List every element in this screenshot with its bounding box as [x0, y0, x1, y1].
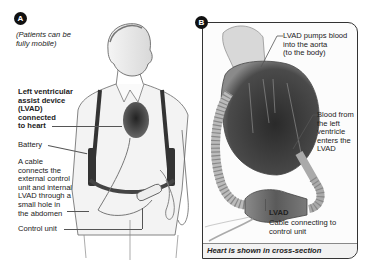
- caption-line: fully mobile): [16, 40, 71, 49]
- label-line: control unit: [269, 228, 336, 237]
- label-lvad: LVAD: [269, 209, 289, 218]
- label-line: LVAD: [317, 145, 354, 154]
- footer-caption: Heart is shown in cross-section: [207, 246, 321, 255]
- label-control-unit: Control unit: [18, 225, 57, 234]
- panel-b-footer: Heart is shown in cross-section: [203, 243, 357, 258]
- label-cable-connecting: Cable connecting to control unit: [269, 219, 336, 236]
- panel-a-badge: A: [14, 12, 27, 25]
- heart-on-chest: [123, 102, 149, 138]
- leader-control-unit: [64, 229, 142, 230]
- leader-lvad: [265, 199, 266, 211]
- label-lvad-connected: Left ventricular assist device (LVAD) co…: [18, 88, 73, 131]
- label-cable: A cable connects the external control un…: [18, 158, 72, 218]
- label-line: (to the body): [283, 49, 347, 58]
- leader-lvad-connected: [52, 126, 122, 127]
- label-battery: Battery: [18, 141, 42, 150]
- leader-pumps-blood: [259, 35, 285, 69]
- leader-blood-from: [291, 113, 319, 153]
- panel-b-frame: LVAD pumps blood into the aorta (to the …: [202, 22, 358, 259]
- panel-a-caption: (Patients can be fully mobile): [16, 31, 71, 48]
- leader-control-unit-vertical: [142, 208, 143, 229]
- panel-b-badge: B: [195, 16, 208, 29]
- label-blood-from-ventricle: Blood from the left ventricle enters the…: [317, 111, 354, 154]
- label-pumps-blood: LVAD pumps blood into the aorta (to the …: [283, 32, 347, 58]
- leader-cable: [67, 211, 89, 212]
- label-line: the abdomen: [18, 210, 72, 219]
